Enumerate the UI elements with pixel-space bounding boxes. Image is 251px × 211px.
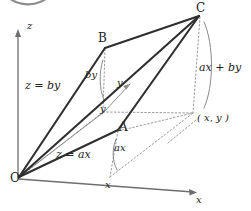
dotted-yfoot-to-xy: [103, 112, 193, 113]
line-o-to-yfoot: [19, 112, 104, 177]
annotation-x-foot: x: [105, 180, 111, 190]
vertex-label-c: C: [196, 2, 205, 14]
y-axis-label: y: [117, 78, 123, 88]
vertex-label-b: B: [98, 32, 107, 44]
y-axis-arrowhead: [123, 84, 130, 90]
parallelogram-edges: [19, 16, 199, 177]
vertex-label-origin: O: [10, 172, 20, 184]
annotation-by: by: [85, 70, 97, 80]
x-axis-label: x: [196, 195, 202, 205]
annotation-ax-plus-by: ax + by: [199, 62, 241, 73]
annotation-y-foot: y: [100, 104, 106, 114]
annotation-z-equals-by: z = by: [25, 80, 60, 91]
annotation-ax: ax: [114, 143, 126, 153]
dotted-xy-tick: [168, 120, 196, 143]
annotation-z-equals-ax: z = ax: [56, 149, 91, 160]
figure-canvas: z y x O A B C z = by z = ax by ax ax + b…: [0, 0, 251, 211]
clipped-arc-decoration: [2, 0, 52, 4]
annotation-point-xy: ( x, y ): [197, 113, 229, 123]
z-axis-label: z: [27, 21, 32, 31]
edge-b-to-c: [105, 16, 199, 48]
axis-lines: [15, 29, 197, 196]
edge-o-to-c: [19, 16, 199, 177]
brace-by: [100, 60, 104, 100]
z-axis-arrowhead: [15, 29, 21, 37]
vertex-label-a: A: [119, 121, 128, 133]
diagram-svg: [0, 0, 251, 211]
